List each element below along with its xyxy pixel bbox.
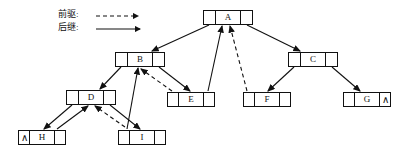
node-g-right-pointer: ∧ xyxy=(379,93,390,106)
legend-label-successor: 后继: xyxy=(58,20,94,33)
node-i-left-pointer xyxy=(119,131,130,144)
edge-D-left-to-H xyxy=(44,105,72,129)
node-c-right-pointer xyxy=(325,53,337,66)
node-e-right-pointer xyxy=(203,93,214,106)
node-a-label: A xyxy=(216,11,240,24)
tree-node-f[interactable]: F xyxy=(243,92,291,107)
edge-A-pred-to-F xyxy=(230,26,247,91)
dashed-arrow-icon xyxy=(94,8,150,20)
node-i-right-pointer xyxy=(154,131,165,144)
tree-node-c[interactable]: C xyxy=(288,52,338,67)
node-b-left-pointer xyxy=(116,53,128,66)
node-d-label: D xyxy=(79,91,103,104)
edge-B-right-to-E xyxy=(159,67,190,91)
legend-label-predecessor: 前驱: xyxy=(58,7,94,20)
edge-D-pred-to-I xyxy=(95,106,125,127)
node-h-left-pointer: ∧ xyxy=(19,131,30,144)
tree-node-a[interactable]: A xyxy=(203,10,253,25)
node-e-left-pointer xyxy=(168,93,179,106)
legend-row-successor: 后继: xyxy=(58,20,168,33)
edge-C-left-to-F xyxy=(268,67,294,91)
node-a-right-pointer xyxy=(240,11,252,24)
null-pointer-icon: ∧ xyxy=(21,133,28,143)
tree-node-b[interactable]: B xyxy=(115,52,165,67)
edge-A-right-to-C xyxy=(247,25,300,51)
edge-B-pred-to-E xyxy=(141,69,172,91)
edge-E-succ-to-A xyxy=(208,26,222,91)
edge-D-right-to-I xyxy=(110,105,140,129)
node-d-left-pointer xyxy=(67,91,79,104)
node-e-label: E xyxy=(179,93,203,106)
diagram-canvas: 前驱: 后继: xyxy=(0,0,403,157)
tree-node-d[interactable]: D xyxy=(66,90,116,105)
node-c-left-pointer xyxy=(289,53,301,66)
tree-node-i[interactable]: I xyxy=(118,130,166,145)
node-f-left-pointer xyxy=(244,93,255,106)
edge-C-right-to-G xyxy=(332,67,360,91)
tree-node-g[interactable]: G∧ xyxy=(343,92,391,107)
solid-arrow-icon xyxy=(94,21,150,33)
node-b-label: B xyxy=(128,53,152,66)
edge-I-succ-to-B xyxy=(127,68,138,129)
node-b-right-pointer xyxy=(152,53,164,66)
node-g-left-pointer xyxy=(344,93,355,106)
edge-B-left-to-D xyxy=(100,67,121,89)
node-f-right-pointer xyxy=(279,93,290,106)
node-i-label: I xyxy=(130,131,154,144)
legend-row-predecessor: 前驱: xyxy=(58,7,168,20)
node-d-right-pointer xyxy=(103,91,115,104)
node-h-right-pointer xyxy=(54,131,65,144)
tree-node-e[interactable]: E xyxy=(167,92,215,107)
tree-node-h[interactable]: ∧H xyxy=(18,130,66,145)
node-f-label: F xyxy=(255,93,279,106)
legend: 前驱: 后继: xyxy=(58,7,168,33)
node-h-label: H xyxy=(30,131,54,144)
node-a-left-pointer xyxy=(204,11,216,24)
node-g-label: G xyxy=(355,93,379,106)
node-c-label: C xyxy=(301,53,325,66)
null-pointer-icon: ∧ xyxy=(382,95,389,105)
edge-H-succ-to-D xyxy=(57,106,88,129)
